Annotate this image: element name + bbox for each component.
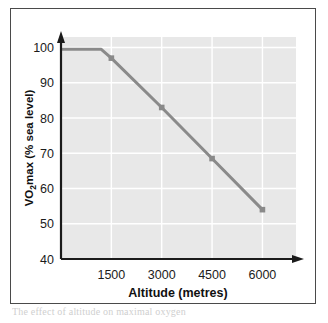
x-tick-label-6000: 6000 xyxy=(249,268,277,282)
y-tick-label-40: 40 xyxy=(40,253,54,267)
y-axis-title: VO2max (% sea level) xyxy=(23,90,38,207)
y-tick-label-100: 100 xyxy=(33,41,54,55)
x-tick-label-1500: 1500 xyxy=(97,268,125,282)
y-axis-tick-labels: 405060708090100 xyxy=(33,41,54,266)
plot-background xyxy=(61,37,296,259)
x-tick-label-4500: 4500 xyxy=(198,268,226,282)
y-axis-title-post: max (% sea level) xyxy=(23,90,35,185)
data-point-6000m xyxy=(260,207,266,213)
figure-frame: 405060708090100 1500300045006000 Altitud… xyxy=(10,8,316,304)
data-point-1500m xyxy=(109,55,115,61)
chart-plot-wrapper: 405060708090100 1500300045006000 Altitud… xyxy=(11,9,317,305)
x-axis-arrow-icon xyxy=(292,255,304,263)
y-tick-label-70: 70 xyxy=(40,147,54,161)
x-axis-tick-labels: 1500300045006000 xyxy=(97,268,276,282)
x-tick-label-3000: 3000 xyxy=(148,268,176,282)
data-point-4500m xyxy=(209,156,215,162)
x-axis-title: Altitude (metres) xyxy=(128,286,227,300)
figure-caption: The effect of altitude on maximal oxygen xyxy=(12,306,322,317)
y-axis-title-pre: VO xyxy=(23,190,35,207)
y-tick-label-50: 50 xyxy=(40,217,54,231)
vo2max-altitude-line-chart: 405060708090100 1500300045006000 Altitud… xyxy=(11,9,317,305)
y-tick-label-60: 60 xyxy=(40,182,54,196)
figure-container: 405060708090100 1500300045006000 Altitud… xyxy=(0,0,328,323)
y-tick-label-90: 90 xyxy=(40,76,54,90)
y-tick-label-80: 80 xyxy=(40,112,54,126)
data-point-3000m xyxy=(159,105,165,111)
